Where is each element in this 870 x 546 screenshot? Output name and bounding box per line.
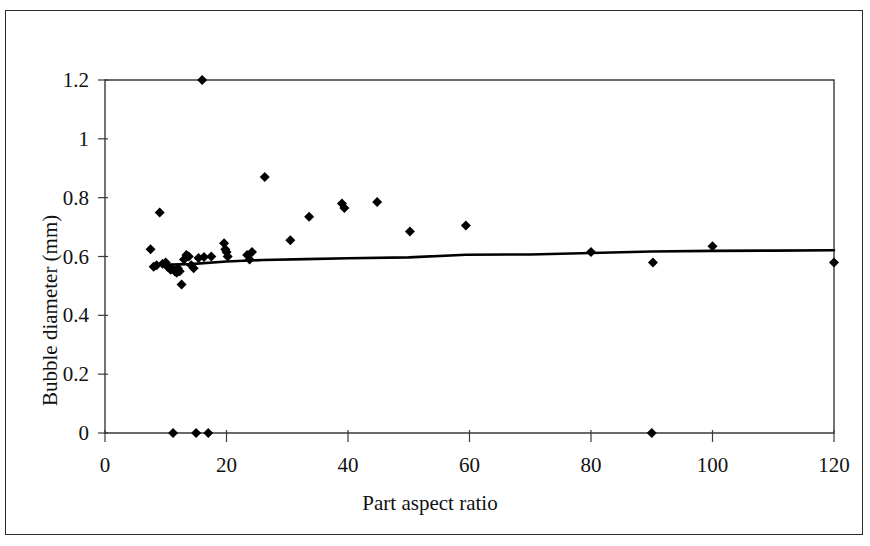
x-tick-label: 40 [338,455,359,476]
x-axis-title: Part aspect ratio [1,493,859,514]
data-point-marker [197,75,207,85]
data-point-marker [191,428,201,438]
x-tick-label: 80 [581,455,602,476]
axes-group [98,80,834,442]
y-tick-label: 1.2 [6,70,89,91]
data-point-marker [146,244,156,254]
x-tick-label: 60 [459,455,480,476]
data-point-marker [405,226,415,236]
x-tick-label: 0 [100,455,111,476]
data-point-marker [304,212,314,222]
x-tick-label: 20 [216,455,237,476]
data-point-marker [829,257,839,267]
x-tick-label: 100 [697,455,729,476]
data-points [146,75,839,438]
scatter-plot-svg [6,11,864,536]
x-tick-label: 120 [818,455,850,476]
y-axis-title: Bubble diameter (mm) [40,215,61,406]
data-point-marker [586,247,596,257]
trend-line-path [163,250,834,264]
figure-frame: 00.20.40.60.811.2 020406080100120 Bubble… [5,10,863,535]
data-point-marker [260,172,270,182]
data-point-marker [177,279,187,289]
data-point-marker [203,428,213,438]
data-point-marker [155,207,165,217]
data-point-marker [372,197,382,207]
data-point-marker [461,221,471,231]
y-tick-label: 1 [6,128,89,149]
chart-area: 00.20.40.60.811.2 020406080100120 Bubble… [6,11,864,536]
trend-line [163,250,834,264]
data-point-marker [648,257,658,267]
data-point-marker [206,252,216,262]
y-tick-label: 0.8 [6,187,89,208]
data-point-marker [285,235,295,245]
data-point-marker [647,428,657,438]
data-point-marker [168,428,178,438]
y-tick-label: 0 [6,423,89,444]
